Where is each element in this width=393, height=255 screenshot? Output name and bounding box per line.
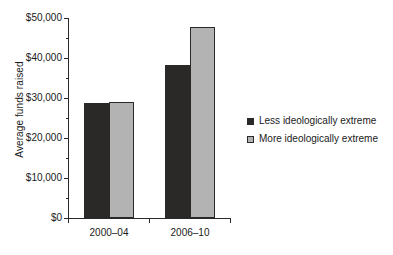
y-tick-label: $40,000 bbox=[26, 53, 62, 63]
y-tick-major bbox=[64, 138, 68, 139]
x-tick bbox=[68, 219, 69, 223]
y-tick-minor bbox=[66, 38, 68, 39]
legend-item-label: Less ideologically extreme bbox=[259, 116, 376, 126]
y-tick-minor bbox=[66, 158, 68, 159]
y-axis-title: Average funds raised bbox=[10, 0, 28, 218]
x-tick bbox=[230, 219, 231, 223]
y-tick-major bbox=[64, 18, 68, 19]
y-tick-major bbox=[64, 58, 68, 59]
legend-swatch-icon bbox=[247, 118, 254, 125]
legend-item: Less ideologically extreme bbox=[247, 112, 393, 130]
x-tick-label: 2000–04 bbox=[90, 228, 129, 238]
plot-area: $0$10,000$20,000$30,000$40,000$50,000 20… bbox=[68, 18, 230, 218]
bar bbox=[190, 27, 215, 218]
legend-swatch-icon bbox=[247, 136, 254, 143]
y-tick-label: $0 bbox=[51, 213, 62, 223]
x-tick-label: 2006–10 bbox=[171, 228, 210, 238]
y-tick-label: $20,000 bbox=[26, 133, 62, 143]
y-tick-major bbox=[64, 98, 68, 99]
y-axis-line bbox=[68, 18, 69, 219]
chart-legend: Less ideologically extremeMore ideologic… bbox=[247, 112, 393, 148]
x-tick bbox=[149, 219, 150, 223]
y-tick-major bbox=[64, 178, 68, 179]
y-axis-title-label: Average funds raised bbox=[14, 61, 25, 157]
y-tick-label: $30,000 bbox=[26, 93, 62, 103]
bar bbox=[165, 65, 190, 218]
bar-chart-figure: Average funds raised $0$10,000$20,000$30… bbox=[0, 0, 393, 255]
y-tick-minor bbox=[66, 78, 68, 79]
y-tick-minor bbox=[66, 118, 68, 119]
bar bbox=[109, 102, 134, 218]
legend-item-label: More ideologically extreme bbox=[259, 134, 378, 144]
legend-item: More ideologically extreme bbox=[247, 130, 393, 148]
y-tick-label: $10,000 bbox=[26, 173, 62, 183]
y-tick-label: $50,000 bbox=[26, 13, 62, 23]
y-tick-minor bbox=[66, 198, 68, 199]
bar bbox=[84, 103, 109, 218]
